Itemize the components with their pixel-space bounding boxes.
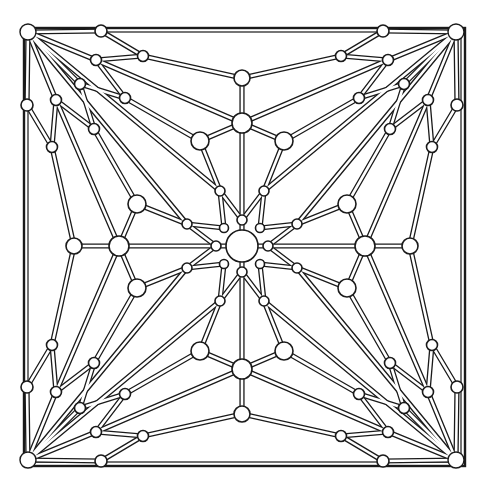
joint-node — [237, 267, 247, 277]
truss-bar — [383, 460, 456, 461]
joint-node — [211, 241, 221, 251]
truss-bar — [143, 414, 242, 436]
joint-node — [423, 387, 434, 398]
joint-node — [259, 186, 269, 196]
center-hub-joint — [226, 230, 258, 262]
joint-node — [292, 219, 302, 229]
joint-node — [234, 70, 250, 86]
joint-node — [75, 403, 86, 414]
truss-bar — [27, 105, 52, 147]
joint-node — [383, 55, 394, 66]
corner-joint — [20, 24, 36, 40]
truss-bar — [383, 31, 456, 32]
joint-node — [47, 142, 58, 153]
joint-node — [399, 79, 410, 90]
truss-bar — [410, 246, 432, 345]
truss-bar — [341, 436, 383, 461]
corner-joint — [448, 452, 464, 468]
joint-node — [220, 224, 229, 233]
joint-node — [256, 260, 265, 269]
truss-bar — [242, 414, 341, 436]
joint-node — [120, 389, 131, 400]
joint-node — [232, 359, 252, 379]
joint-node — [191, 132, 209, 150]
joint-node — [354, 93, 365, 104]
truss-bar — [27, 387, 28, 460]
truss-bar — [410, 147, 432, 246]
joint-node — [292, 263, 302, 273]
joint-node — [128, 195, 146, 213]
truss-bar — [143, 56, 242, 78]
joint-node — [138, 51, 149, 62]
joint-node — [234, 406, 250, 422]
joint-node — [336, 51, 347, 62]
joint-node — [338, 195, 356, 213]
joint-node — [355, 236, 375, 256]
truss-bar — [341, 31, 383, 56]
joint-node — [51, 95, 62, 106]
joint-node — [109, 236, 129, 256]
joint-node — [427, 340, 438, 351]
joint-node — [451, 381, 463, 393]
corner-joint — [20, 452, 36, 468]
joint-node — [402, 238, 418, 254]
joint-node — [21, 381, 33, 393]
truss-bar — [101, 436, 143, 461]
joint-node — [383, 427, 394, 438]
joint-node — [263, 241, 273, 251]
truss-bar — [456, 32, 457, 105]
joint-node — [95, 25, 107, 37]
joint-node — [220, 260, 229, 269]
joint-node — [21, 99, 33, 111]
truss-bar — [28, 31, 101, 32]
joint-node — [256, 224, 265, 233]
joint-node — [451, 99, 463, 111]
joint-node — [191, 342, 209, 360]
joint-node — [423, 95, 434, 106]
joint-node — [128, 279, 146, 297]
truss-bar — [27, 32, 28, 105]
corner-joint — [448, 24, 464, 40]
joint-node — [51, 387, 62, 398]
joint-node — [377, 25, 389, 37]
joint-node — [354, 389, 365, 400]
truss-bar — [432, 105, 457, 147]
truss-bar — [242, 56, 341, 78]
joint-node — [66, 238, 82, 254]
joint-node — [182, 263, 192, 273]
joint-node — [232, 113, 252, 133]
joint-node — [120, 93, 131, 104]
joint-node — [182, 219, 192, 229]
joint-node — [259, 296, 269, 306]
truss-bar — [101, 31, 143, 56]
truss-bar — [52, 147, 74, 246]
joint-node — [95, 455, 107, 467]
joint-node — [89, 358, 100, 369]
joint-node — [275, 132, 293, 150]
joint-node — [275, 342, 293, 360]
joint-node — [338, 279, 356, 297]
joint-node — [91, 427, 102, 438]
joint-node — [399, 403, 410, 414]
truss-bar — [28, 460, 101, 461]
joint-node — [237, 215, 247, 225]
joint-node — [377, 455, 389, 467]
truss-bar — [52, 246, 74, 345]
joint-node — [47, 340, 58, 351]
truss-bar — [456, 387, 457, 460]
joint-node — [138, 431, 149, 442]
joint-node — [215, 296, 225, 306]
joint-node — [336, 431, 347, 442]
joint-node — [89, 124, 100, 135]
joint-node — [75, 79, 86, 90]
joint-node — [427, 142, 438, 153]
truss-bar — [27, 345, 52, 387]
joint-node — [215, 186, 225, 196]
truss-bar — [432, 345, 457, 387]
joint-node — [385, 124, 396, 135]
joint-node — [385, 358, 396, 369]
lattice-pattern-graphic — [0, 0, 488, 495]
joint-node — [91, 55, 102, 66]
truss-diagram — [0, 0, 488, 495]
